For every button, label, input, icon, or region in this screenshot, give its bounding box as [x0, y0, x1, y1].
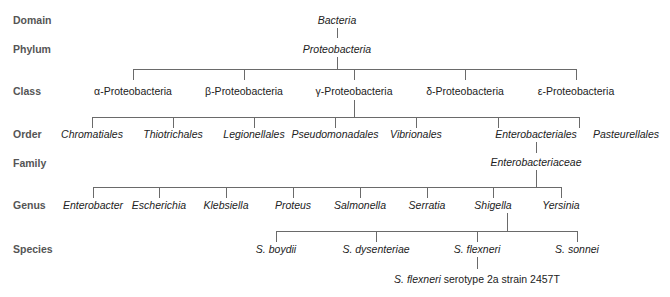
- connector-line: [337, 57, 338, 69]
- connector-line: [477, 231, 478, 242]
- node-domain: Bacteria: [318, 14, 357, 26]
- node-genus-klebsiella: Klebsiella: [204, 199, 249, 211]
- node-genus-escherichia: Escherichia: [132, 199, 186, 211]
- class-bracket: [133, 69, 577, 70]
- rank-label-genus: Genus: [13, 199, 46, 211]
- node-species-sonnei: S. sonnei: [555, 243, 599, 255]
- node-genus-proteus: Proteus: [275, 199, 311, 211]
- rank-label-order: Order: [13, 128, 42, 140]
- connector-line: [507, 213, 508, 231]
- node-order-vibrionales: Vibrionales: [390, 128, 442, 140]
- connector-line: [416, 117, 417, 128]
- node-class-gamma: γ-Proteobacteria: [315, 85, 392, 97]
- connector-line: [477, 257, 478, 269]
- node-class-epsilon: ε-Proteobacteria: [538, 85, 614, 97]
- node-class-alpha: α-Proteobacteria: [94, 85, 172, 97]
- node-species-boydii: S. boydii: [256, 243, 296, 255]
- node-strain: S. flexneri serotype 2a strain 2457T: [394, 273, 560, 285]
- rank-label-phylum: Phylum: [13, 43, 51, 55]
- connector-line: [536, 170, 537, 187]
- connector-line: [276, 231, 277, 242]
- node-genus-serratia: Serratia: [409, 199, 446, 211]
- species-bracket: [276, 231, 578, 232]
- connector-line: [577, 231, 578, 242]
- rank-label-species: Species: [13, 243, 53, 255]
- rank-label-family: Family: [13, 157, 46, 169]
- node-genus-yersinia: Yersinia: [542, 199, 579, 211]
- connector-line: [576, 69, 577, 80]
- strain-designation: serotype 2a strain 2457T: [441, 273, 560, 285]
- connector-line: [244, 69, 245, 80]
- connector-line: [354, 69, 355, 80]
- node-class-delta: δ-Proteobacteria: [426, 85, 504, 97]
- connector-line: [498, 117, 499, 128]
- connector-line: [93, 187, 94, 198]
- connector-line: [159, 187, 160, 198]
- connector-line: [561, 187, 562, 198]
- node-family-enterobacteriaceae: Enterobacteriaceae: [490, 156, 581, 168]
- connector-line: [579, 117, 580, 128]
- rank-label-domain: Domain: [13, 14, 52, 26]
- connector-line: [337, 28, 338, 38]
- node-species-flexneri: S. flexneri: [454, 243, 501, 255]
- node-order-chromatiales: Chromatiales: [61, 128, 123, 140]
- node-class-beta: β-Proteobacteria: [205, 85, 283, 97]
- connector-line: [254, 117, 255, 128]
- node-order-legionellales: Legionellales: [223, 128, 284, 140]
- connector-line: [465, 69, 466, 80]
- node-species-dysenteriae: S. dysenteriae: [342, 243, 409, 255]
- connector-line: [536, 142, 537, 153]
- node-order-pasteurellales: Pasteurellales: [593, 128, 659, 140]
- node-phylum: Proteobacteria: [303, 43, 371, 55]
- connector-line: [354, 100, 355, 117]
- connector-line: [173, 117, 174, 128]
- connector-line: [360, 187, 361, 198]
- strain-species-name: S. flexneri: [394, 273, 441, 285]
- order-bracket: [92, 117, 580, 118]
- connector-line: [493, 187, 494, 198]
- node-genus-shigella: Shigella: [474, 199, 511, 211]
- connector-line: [293, 187, 294, 198]
- connector-line: [427, 187, 428, 198]
- node-genus-salmonella: Salmonella: [334, 199, 386, 211]
- connector-line: [133, 69, 134, 80]
- connector-line: [335, 117, 336, 128]
- node-order-enterobacteriales: Enterobacteriales: [495, 128, 577, 140]
- connector-line: [226, 187, 227, 198]
- connector-line: [376, 231, 377, 242]
- genus-bracket: [93, 187, 562, 188]
- rank-label-class: Class: [13, 85, 41, 97]
- node-order-pseudomonadales: Pseudomonadales: [292, 128, 379, 140]
- connector-line: [92, 117, 93, 128]
- node-order-thiotrichales: Thiotrichales: [143, 128, 203, 140]
- node-genus-enterobacter: Enterobacter: [63, 199, 123, 211]
